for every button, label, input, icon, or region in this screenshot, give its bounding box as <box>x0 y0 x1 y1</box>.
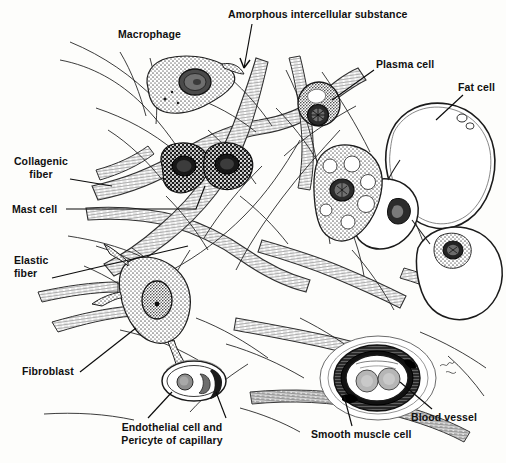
label-elastic-fiber: Elastic fiber <box>14 254 60 279</box>
fat-cell-lower <box>416 227 502 320</box>
label-blood-vessel: Blood vessel <box>411 411 477 424</box>
connective-tissue-figure: Amorphous intercellular substance Macrop… <box>0 0 506 463</box>
label-endothelial-cell-and-pericyte-of-capillary: Endothelial cell and Pericyte of capilla… <box>100 421 244 446</box>
tissue-squiggle <box>440 362 456 373</box>
label-fat-cell: Fat cell <box>458 81 495 94</box>
leader-fibroblast <box>80 328 136 372</box>
label-plasma-cell: Plasma cell <box>376 58 434 71</box>
plasma-cell-body <box>298 82 340 126</box>
blood-vessel-body <box>320 336 436 420</box>
label-collagenic-fiber: Collagenic fiber <box>10 155 72 180</box>
leader-pericyte <box>216 392 226 418</box>
label-smooth-muscle-cell: Smooth muscle cell <box>311 428 411 441</box>
leader-amorphous <box>244 24 252 68</box>
label-macrophage: Macrophage <box>118 28 181 41</box>
macrophage-cell <box>147 56 244 113</box>
mast-cell-lower <box>204 143 253 190</box>
label-mast-cell: Mast cell <box>12 203 57 216</box>
label-fibroblast: Fibroblast <box>22 365 74 378</box>
label-amorphous-intercellular-substance: Amorphous intercellular substance <box>228 8 408 21</box>
leader-endothelial-cell <box>148 392 172 418</box>
capillary <box>162 360 226 401</box>
